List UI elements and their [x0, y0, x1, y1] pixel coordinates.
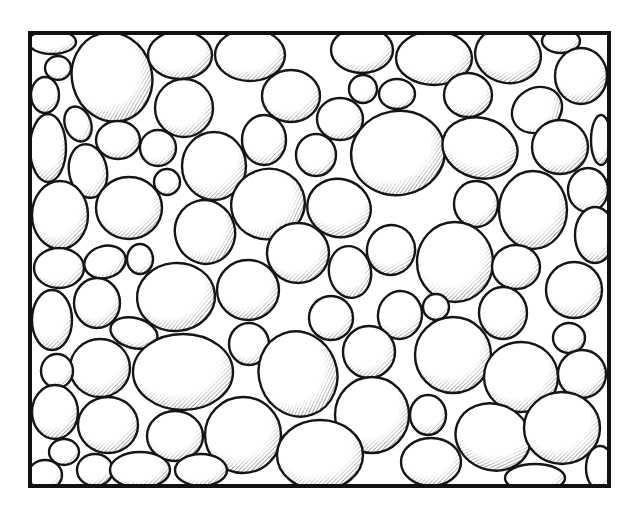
pebble — [96, 177, 162, 239]
pebble — [343, 326, 395, 378]
pebble — [499, 171, 567, 249]
pebble — [296, 134, 336, 176]
pebble — [568, 168, 608, 212]
pebble — [349, 75, 377, 103]
pebble — [133, 334, 233, 410]
pebble — [267, 223, 329, 283]
pebble — [96, 121, 140, 159]
pebble — [444, 73, 492, 117]
pebble — [175, 454, 227, 486]
pebbles-illustration — [0, 0, 639, 515]
pebble — [32, 385, 78, 439]
pebble — [532, 120, 588, 174]
pebble — [70, 339, 130, 397]
pebble — [309, 296, 353, 340]
pebble — [555, 48, 607, 104]
pebble — [140, 130, 176, 166]
pebble — [546, 262, 602, 318]
pebble — [41, 354, 73, 388]
pebble — [417, 222, 493, 302]
pebble — [155, 79, 213, 137]
pebble — [410, 395, 446, 435]
pebble — [77, 454, 113, 486]
pebble — [479, 287, 527, 339]
pebble — [78, 397, 138, 453]
pebble — [423, 294, 449, 320]
pebble — [262, 70, 320, 122]
pebble — [558, 350, 606, 398]
pebble — [31, 77, 59, 113]
pebble — [217, 260, 279, 320]
pebble — [30, 114, 66, 182]
pebble — [32, 181, 88, 249]
pebble — [74, 278, 120, 328]
pebble — [401, 438, 461, 486]
pebble — [148, 31, 212, 79]
pebble — [127, 244, 153, 274]
pebble — [277, 420, 363, 490]
pebble — [492, 245, 540, 289]
pebble — [379, 79, 415, 109]
pebble — [34, 248, 84, 288]
pebble — [32, 290, 72, 350]
pebble — [242, 115, 286, 165]
pebble — [553, 323, 585, 353]
pebble — [110, 452, 170, 488]
pebble — [454, 181, 498, 227]
pebble — [415, 317, 491, 393]
